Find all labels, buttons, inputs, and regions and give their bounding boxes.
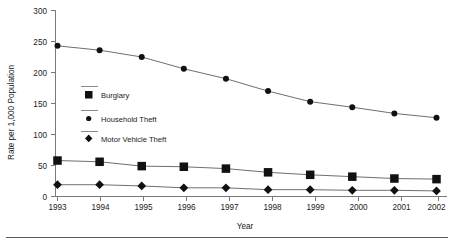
legend-marker-circle-icon — [86, 116, 91, 121]
x-axis-ticks — [58, 197, 439, 202]
datapoint-burglary-1999 — [306, 171, 315, 180]
series-household-theft — [55, 43, 440, 121]
series-line-motor-vehicle-theft — [58, 185, 437, 191]
x-tick-label-2002: 2002 — [427, 203, 446, 212]
y-tick-label-0: 0 — [42, 193, 47, 202]
datapoint-motor-vehicle-theft-1999 — [306, 185, 315, 194]
datapoint-household-theft-1999 — [307, 99, 313, 105]
datapoint-burglary-1993 — [53, 156, 62, 165]
legend-label-household-theft: Household Theft — [101, 115, 157, 124]
datapoint-motor-vehicle-theft-2001 — [390, 186, 399, 195]
x-tick-label-2001: 2001 — [392, 203, 411, 212]
datapoint-household-theft-2000 — [349, 104, 355, 110]
chart-legend: Burglary Household Theft Motor Vehicle T… — [81, 87, 167, 144]
datapoint-burglary-1998 — [264, 168, 273, 177]
datapoint-motor-vehicle-theft-1998 — [264, 185, 273, 194]
datapoint-burglary-2000 — [348, 172, 357, 181]
x-axis-title: Year — [237, 222, 254, 231]
x-tick-label-1994: 1994 — [91, 203, 110, 212]
datapoint-household-theft-1994 — [97, 47, 103, 53]
datapoint-motor-vehicle-theft-1993 — [53, 180, 62, 189]
datapoint-motor-vehicle-theft-1995 — [137, 182, 146, 191]
datapoint-motor-vehicle-theft-2000 — [348, 186, 357, 195]
x-tick-label-1999: 1999 — [306, 203, 325, 212]
series-line-household-theft — [58, 46, 437, 118]
y-axis-title: Rate per 1,000 Population — [7, 64, 16, 160]
x-tick-label-1993: 1993 — [48, 203, 67, 212]
datapoint-household-theft-1997 — [223, 76, 229, 82]
datapoint-household-theft-1998 — [265, 88, 271, 94]
datapoint-burglary-1997 — [222, 164, 231, 173]
x-tick-label-1996: 1996 — [177, 203, 196, 212]
y-tick-label-150: 150 — [33, 100, 47, 109]
legend-label-motor-vehicle-theft: Motor Vehicle Theft — [101, 135, 167, 144]
series-line-burglary — [58, 161, 437, 180]
chart-figure: 300 250 200 150 100 50 0 Rate per 1,000 … — [0, 0, 454, 241]
datapoint-burglary-1995 — [137, 162, 146, 171]
datapoint-burglary-1994 — [95, 158, 104, 167]
y-tick-label-100: 100 — [33, 131, 47, 140]
legend-marker-square-icon — [85, 91, 93, 99]
line-chart-canvas: 300 250 200 150 100 50 0 Rate per 1,000 … — [0, 0, 454, 241]
datapoint-household-theft-1995 — [139, 54, 145, 60]
datapoint-household-theft-1996 — [181, 66, 187, 72]
datapoint-household-theft-2001 — [391, 110, 397, 116]
y-tick-label-250: 250 — [33, 38, 47, 47]
x-tick-label-1995: 1995 — [134, 203, 153, 212]
x-tick-label-1997: 1997 — [220, 203, 239, 212]
datapoint-household-theft-2002 — [434, 115, 440, 121]
series-burglary — [53, 156, 441, 183]
legend-marker-diamond-icon — [85, 135, 92, 143]
y-tick-label-200: 200 — [33, 69, 47, 78]
series-motor-vehicle-theft — [53, 180, 441, 195]
datapoint-motor-vehicle-theft-1997 — [222, 183, 231, 192]
datapoint-burglary-2002 — [432, 175, 441, 184]
datapoint-motor-vehicle-theft-2002 — [432, 187, 441, 196]
x-tick-label-2000: 2000 — [349, 203, 368, 212]
datapoint-burglary-1996 — [180, 162, 189, 171]
y-axis-ticks — [51, 11, 56, 197]
y-tick-label-50: 50 — [38, 162, 48, 171]
datapoint-burglary-2001 — [390, 174, 399, 183]
datapoint-motor-vehicle-theft-1994 — [95, 180, 104, 189]
datapoint-household-theft-1993 — [55, 43, 61, 49]
x-tick-label-1998: 1998 — [263, 203, 282, 212]
legend-label-burglary: Burglary — [101, 91, 129, 100]
datapoint-motor-vehicle-theft-1996 — [179, 183, 188, 192]
y-tick-label-300: 300 — [33, 7, 47, 16]
